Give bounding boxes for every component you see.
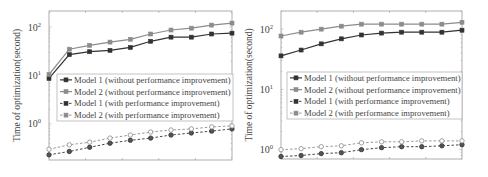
data-point-marker: [399, 140, 403, 144]
data-point-marker: [420, 144, 424, 148]
data-point-marker: [149, 39, 153, 43]
legend-marker: [64, 78, 68, 82]
legend-marker: [64, 90, 68, 94]
chart-left: 100101102Time of optimization(second)Mod…: [12, 11, 234, 160]
data-point-marker: [47, 147, 51, 151]
data-point-marker: [230, 31, 234, 35]
data-point-marker: [87, 145, 91, 149]
data-point-marker: [319, 151, 323, 155]
data-point-marker: [420, 30, 424, 34]
data-point-marker: [379, 140, 383, 144]
y-tick-label: 102: [28, 21, 41, 33]
data-point-marker: [128, 138, 132, 142]
data-point-marker: [400, 22, 404, 26]
data-point-marker: [339, 24, 343, 28]
data-point-marker: [128, 45, 132, 49]
data-point-marker: [440, 22, 444, 26]
data-point-marker: [210, 32, 214, 36]
data-point-marker: [47, 153, 51, 157]
data-point-marker: [169, 128, 173, 132]
data-point-marker: [380, 31, 384, 35]
data-point-marker: [460, 139, 464, 143]
data-point-marker: [420, 139, 424, 143]
data-point-marker: [169, 28, 173, 32]
y-tick-label: 102: [260, 23, 273, 35]
legend-marker: [294, 99, 298, 103]
data-point-marker: [339, 37, 343, 41]
legend: Model 1 (without performance improvement…: [287, 72, 462, 119]
data-point-marker: [279, 154, 283, 158]
data-point-marker: [440, 139, 444, 143]
legend-entry: Model 2 (with performance improvement): [74, 110, 220, 120]
legend-entry: Model 2 (without performance improvement…: [304, 85, 461, 95]
y-tick-label: 100: [28, 117, 41, 129]
data-point-marker: [319, 42, 323, 46]
data-point-marker: [47, 72, 51, 76]
y-axis-label: Time of optimization(second): [12, 29, 23, 142]
data-point-marker: [128, 37, 132, 41]
data-point-marker: [210, 23, 214, 27]
data-point-marker: [67, 53, 71, 57]
data-point-marker: [359, 147, 363, 151]
data-point-marker: [399, 144, 403, 148]
data-point-marker: [460, 28, 464, 32]
data-point-marker: [189, 127, 193, 131]
y-tick-label: 100: [260, 143, 273, 155]
data-point-marker: [279, 147, 283, 151]
y-tick-label: 101: [260, 83, 273, 95]
data-point-marker: [460, 20, 464, 24]
legend-marker: [64, 101, 68, 105]
legend-marker: [294, 111, 298, 115]
data-point-marker: [108, 136, 112, 140]
data-point-marker: [359, 141, 363, 145]
legend: Model 1 (without performance improvement…: [57, 74, 233, 121]
data-point-marker: [299, 30, 303, 34]
data-point-marker: [299, 146, 303, 150]
data-point-marker: [380, 22, 384, 26]
data-point-marker: [148, 130, 152, 134]
data-point-marker: [209, 125, 213, 129]
legend-marker: [294, 76, 298, 80]
data-point-marker: [189, 26, 193, 30]
data-point-marker: [108, 48, 112, 52]
chart-right: 100101102Time of optimization(second)Mod…: [244, 11, 464, 159]
data-point-marker: [169, 35, 173, 39]
data-point-marker: [420, 22, 424, 26]
legend-entry: Model 1 (without performance improvement…: [304, 73, 461, 83]
data-point-marker: [440, 30, 444, 34]
data-point-marker: [209, 129, 213, 133]
legend-entry: Model 1 (with performance improvement): [74, 98, 220, 108]
legend-marker: [294, 88, 298, 92]
data-point-marker: [279, 54, 283, 58]
data-point-marker: [299, 153, 303, 157]
data-point-marker: [279, 34, 283, 38]
data-point-marker: [379, 145, 383, 149]
data-point-marker: [359, 22, 363, 26]
data-point-marker: [128, 133, 132, 137]
legend-entry: Model 2 (with performance improvement): [304, 108, 450, 118]
legend-entry: Model 1 (with performance improvement): [304, 96, 450, 106]
legend-entry: Model 1 (without performance improvement…: [74, 75, 231, 85]
y-tick-label: 101: [28, 69, 41, 81]
data-point-marker: [88, 50, 92, 54]
data-point-marker: [108, 40, 112, 44]
data-point-marker: [189, 35, 193, 39]
data-point-marker: [319, 27, 323, 31]
data-point-marker: [400, 30, 404, 34]
y-axis-label: Time of optimization(second): [244, 28, 255, 141]
data-point-marker: [440, 144, 444, 148]
data-point-marker: [359, 33, 363, 37]
data-point-marker: [230, 21, 234, 25]
data-point-marker: [230, 124, 234, 128]
legend-entry: Model 2 (without performance improvement…: [74, 87, 231, 97]
data-point-marker: [47, 76, 51, 80]
data-point-marker: [67, 143, 71, 147]
data-point-marker: [319, 144, 323, 148]
legend-marker: [64, 113, 68, 117]
chart-canvas: 100101102Time of optimization(second)Mod…: [0, 0, 488, 177]
data-point-marker: [108, 141, 112, 145]
data-point-marker: [87, 140, 91, 144]
data-point-marker: [169, 133, 173, 137]
data-point-marker: [67, 47, 71, 51]
data-point-marker: [88, 43, 92, 47]
